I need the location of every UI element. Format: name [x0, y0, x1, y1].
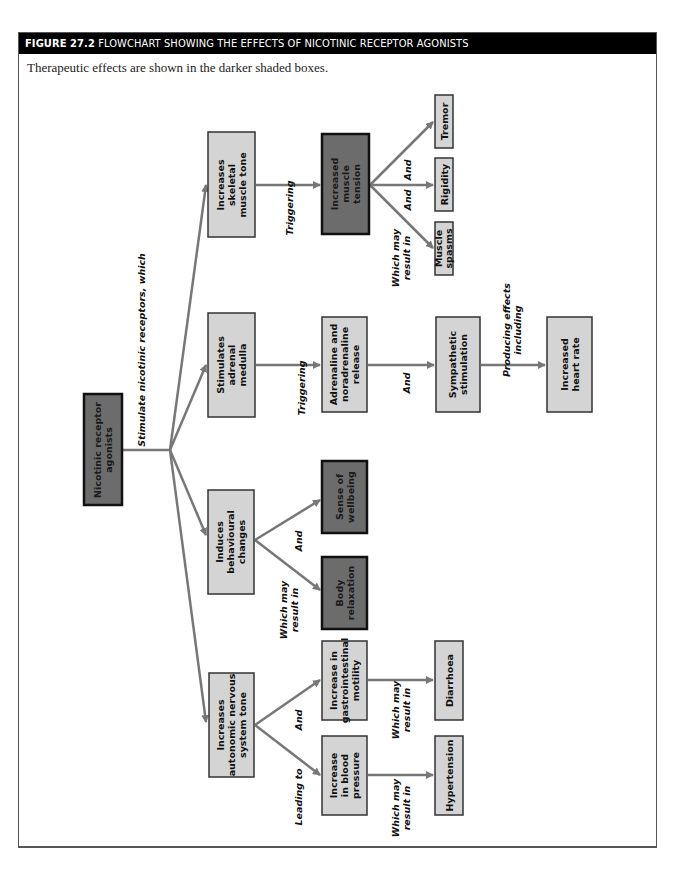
node-muscle-spasms: Musclespasms [433, 222, 454, 275]
node-root: Nicotinic receptoragonists [84, 394, 122, 505]
svg-text:Increasedheart rate: Increasedheart rate [559, 337, 581, 391]
svg-text:Rigidity: Rigidity [439, 163, 450, 205]
node-gi-motility: Increase ingastrointestinalmotility [322, 638, 367, 724]
edge-label-autonomic-gi: And [293, 709, 304, 731]
edge-label-gi-diarrhoea: Which mayresult in [390, 680, 412, 739]
edge-label-tension-rigidity: And [402, 189, 413, 211]
edge-label-tension-tremor: And [402, 159, 413, 181]
edge-label-bp-hypertension: Which mayresult in [390, 778, 412, 837]
node-autonomic-tone: Increasesautonomic nervoussystem tone [209, 673, 254, 777]
node-tremor: Tremor [435, 95, 453, 148]
svg-text:Increasedmuscletension: Increasedmuscletension [329, 158, 362, 210]
node-body-relaxation: Bodyrelaxation [322, 557, 367, 629]
edge-label-skeletal-tension: Triggering [284, 180, 295, 235]
edge-label-behavioural-wellbeing: And [293, 530, 304, 552]
edge-label-adrenal-adrenaline: Triggering [296, 360, 307, 415]
svg-text:Musclespasms: Musclespasms [433, 228, 454, 268]
node-adrenal-medulla: Stimulatesadrenalmedulla [208, 313, 255, 417]
edge-label-adrenaline-sympathetic: And [401, 372, 412, 394]
node-skeletal-muscle-tone: Increasesskeletalmuscle tone [208, 132, 255, 237]
node-diarrhoea: Diarrhoea [435, 641, 463, 720]
node-rigidity: Rigidity [435, 158, 453, 211]
svg-text:Diarrhoea: Diarrhoea [444, 654, 455, 707]
node-sympathetic-stimulation: Sympatheticstimulation [436, 317, 480, 412]
node-blood-pressure: Increasein bloodpressure [322, 736, 367, 815]
node-adrenaline-release: Adrenaline andnoradrenalinerelease [322, 317, 367, 412]
arrow-behavioural-wellbeing [255, 500, 320, 540]
arrow-autonomic-bp [255, 725, 320, 775]
edge-label-tension-spasms: Which mayresult in [390, 228, 412, 287]
node-sense-of-wellbeing: Sense ofwellbeing [322, 461, 367, 533]
svg-text:Increasein bloodpressure: Increasein bloodpressure [328, 752, 361, 799]
node-increased-heart-rate: Increasedheart rate [547, 317, 592, 412]
node-hypertension: Hypertension [435, 736, 463, 815]
node-increased-muscle-tension: Increasedmuscletension [322, 134, 369, 234]
edge-label-autonomic-bp: Leading to [293, 768, 304, 825]
edge-label-root: Stimulate nicotinic receptors, which [136, 253, 147, 447]
svg-text:Hypertension: Hypertension [444, 739, 455, 811]
edge-label-sympathetic-heartrate: Producing effectsincluding [501, 283, 523, 377]
flowchart: Nicotinic receptoragonists Increasesskel… [0, 0, 690, 881]
edge-label-behavioural-relaxation: Which mayresult in [278, 580, 300, 639]
svg-text:Sympatheticstimulation: Sympatheticstimulation [447, 331, 469, 398]
arrow-autonomic-gi [255, 680, 320, 725]
svg-text:Sense ofwellbeing: Sense ofwellbeing [334, 471, 356, 523]
node-behavioural-changes: Inducesbehaviouralchanges [208, 490, 254, 594]
svg-text:Tremor: Tremor [439, 102, 450, 140]
